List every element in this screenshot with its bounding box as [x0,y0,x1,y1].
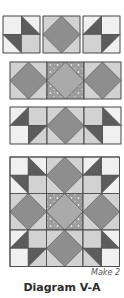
quilt-unit-diamond-light [43,16,80,53]
quilt-unit-diamond-medium [47,157,84,194]
quilt-diagram [0,0,124,298]
quilt-unit-diamond-light [10,194,47,231]
quilt-unit-pinwheel-left [10,157,47,194]
quilt-unit-star-left [10,230,47,267]
quilt-unit-pinwheel-left [3,16,40,53]
make-count-note: Make 2 [91,268,120,277]
quilt-unit-star-left [10,107,47,144]
quilt-unit-diamond-speckle [47,194,84,231]
quilt-unit-diamond-medium [47,107,84,144]
quilt-unit-diamond-medium [47,230,84,267]
quilt-unit-diamond-light [83,194,120,231]
quilt-unit-diamond-speckle [47,62,84,99]
quilt-unit-diamond-light [84,62,121,99]
quilt-unit-pinwheel-right [83,157,120,194]
quilt-unit-pinwheel-right [83,16,120,53]
diagram-title: Diagram V-A [0,281,124,294]
quilt-unit-star-right [83,230,120,267]
quilt-unit-diamond-light [10,62,47,99]
quilt-units [3,16,121,267]
quilt-unit-star-right [84,107,121,144]
